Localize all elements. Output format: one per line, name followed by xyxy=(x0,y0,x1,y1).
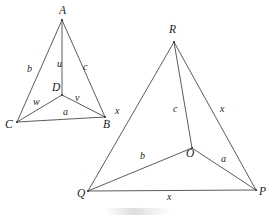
right-triangle-edge-QP xyxy=(88,190,256,191)
right-triangle-edge-RQ xyxy=(88,42,174,191)
left-triangle-vertex-label-C: C xyxy=(5,119,13,131)
right-triangle-side-label-RP: x xyxy=(220,104,224,114)
left-triangle-side-label-AD: u xyxy=(57,59,62,69)
left-triangle-side-label-DC: w xyxy=(33,97,40,107)
right-triangle-vertex-dot-P xyxy=(255,189,257,191)
right-triangle-side-label-RQ: x xyxy=(115,106,119,116)
right-triangle-side-label-RO: c xyxy=(173,104,177,114)
left-triangle-edge-DB xyxy=(62,95,105,117)
left-triangle-vertex-dot-D xyxy=(61,94,63,96)
left-triangle-side-label-DB: v xyxy=(75,93,79,103)
right-triangle-side-label-OP: a xyxy=(221,154,226,164)
right-triangle-side-label-QP: x xyxy=(167,192,171,202)
left-triangle-side-label-AB: c xyxy=(83,62,87,72)
left-triangle-vertex-dot-A xyxy=(61,19,63,21)
left-triangle-vertex-dot-C xyxy=(16,121,18,123)
left-triangle-side-label-AC: b xyxy=(27,64,32,74)
left-triangle-vertex-label-B: B xyxy=(103,119,110,131)
right-triangle-vertex-dot-Q xyxy=(87,190,89,192)
right-triangle-edges xyxy=(88,42,256,191)
right-triangle-vertex-label-R: R xyxy=(169,24,176,36)
right-triangle-side-label-OQ: b xyxy=(140,151,145,161)
geometry-figure: bcauwvABCDxxxcbaRPQO xyxy=(0,0,272,222)
left-triangle-edge-CB xyxy=(17,117,105,122)
right-triangle-vertex-label-P: P xyxy=(259,186,266,198)
figure-canvas xyxy=(0,0,272,222)
right-triangle-vertex-label-O: O xyxy=(186,148,194,160)
left-triangle-vertex-label-D: D xyxy=(52,82,60,94)
right-triangle-vertex-label-Q: Q xyxy=(77,188,85,200)
left-triangle-side-label-CB: a xyxy=(63,107,68,117)
right-triangle-vertex-dots xyxy=(87,41,257,192)
left-triangle-vertex-label-A: A xyxy=(59,5,66,17)
right-triangle-vertex-dot-R xyxy=(173,41,175,43)
